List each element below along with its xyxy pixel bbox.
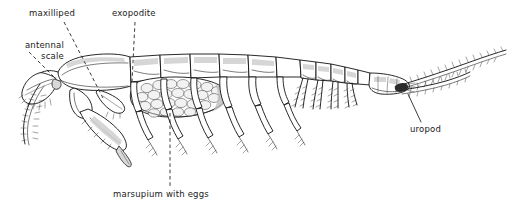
- label-antennal-scale-line1: antennal: [25, 40, 64, 50]
- antennal-scale-group: [19, 73, 57, 110]
- pleopod-group: [292, 78, 357, 109]
- mysid-shrimp-diagram: antennalscale maxilliped exopodite marsu…: [0, 0, 521, 217]
- label-marsupium-with-eggs: marsupium with eggs: [113, 189, 209, 200]
- label-antennal-scale: antennalscale: [2, 40, 64, 62]
- abdomen-group: [300, 60, 370, 85]
- marsupium-group: [130, 77, 226, 117]
- label-uropod: uropod: [410, 124, 441, 135]
- anatomy-illustration: [0, 0, 521, 217]
- leader-uropod: [408, 94, 421, 122]
- label-maxilliped: maxilliped: [29, 8, 75, 19]
- uropod-group: [395, 47, 506, 97]
- eye-group: [52, 79, 61, 89]
- label-antennal-scale-line2: scale: [41, 51, 64, 61]
- maxilliped-palp-group: [96, 90, 125, 119]
- label-exopodite: exopodite: [112, 8, 156, 19]
- telson-group: [369, 73, 415, 94]
